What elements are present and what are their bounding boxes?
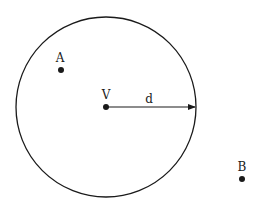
point-v-dot	[103, 104, 109, 110]
point-b-label: B	[238, 160, 247, 174]
point-v-label: V	[101, 88, 111, 102]
radius-label: d	[145, 92, 153, 106]
point-a-dot	[58, 67, 64, 73]
diagram-svg: d V A B	[0, 0, 264, 213]
point-b-dot	[239, 176, 245, 182]
diagram-canvas: d V A B	[0, 0, 264, 213]
point-a-label: A	[55, 51, 65, 65]
